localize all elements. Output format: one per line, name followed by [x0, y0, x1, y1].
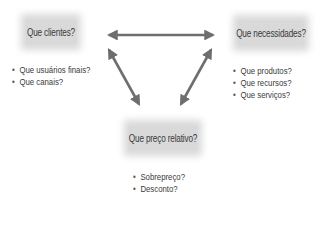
node-price-box: Que preço relativo?: [129, 126, 198, 150]
node-needs-title: Que necessidades?: [236, 28, 306, 39]
node-needs-box: Que necessidades?: [238, 21, 304, 45]
list-item: Sobrepreço?: [133, 171, 185, 183]
node-price-title: Que preço relativo?: [129, 133, 197, 144]
node-needs-list: Que produtos? Que recursos? Que serviços…: [233, 65, 292, 101]
node-clients-title: Que clientes?: [27, 27, 75, 38]
node-price-list: Sobrepreço? Desconto?: [133, 171, 185, 195]
list-item: Que usuários finais?: [12, 64, 90, 76]
list-item: Que recursos?: [233, 77, 292, 89]
node-clients-box: Que clientes?: [26, 20, 77, 44]
list-item: Que serviços?: [233, 89, 292, 101]
arrow-clients-price: [109, 50, 139, 104]
list-item: Que produtos?: [233, 65, 292, 77]
list-item: Desconto?: [133, 183, 185, 195]
arrow-needs-price: [181, 50, 211, 104]
node-clients-list: Que usuários finais? Que canais?: [12, 64, 90, 88]
list-item: Que canais?: [12, 76, 90, 88]
